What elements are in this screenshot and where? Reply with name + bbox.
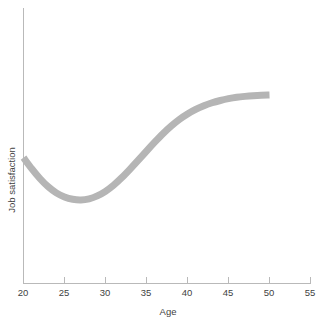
x-tick-label-45: 45: [223, 287, 234, 298]
job-satisfaction-line-chart: 20 25 30 35 40 45 50 55 Age Job satisfac…: [0, 0, 331, 323]
x-tick-label-50: 50: [264, 287, 275, 298]
x-axis-tick-labels: 20 25 30 35 40 45 50 55: [18, 287, 316, 298]
x-tick-label-55: 55: [305, 287, 316, 298]
x-axis-title: Age: [160, 306, 177, 317]
x-tick-label-40: 40: [182, 287, 193, 298]
chart-container: 20 25 30 35 40 45 50 55 Age Job satisfac…: [0, 0, 331, 323]
x-tick-label-30: 30: [100, 287, 111, 298]
x-axis-ticks: [24, 277, 311, 284]
x-tick-label-35: 35: [141, 287, 152, 298]
x-tick-label-20: 20: [18, 287, 29, 298]
job-satisfaction-curve: [24, 95, 270, 200]
y-axis-title: Job satisfaction: [6, 147, 17, 212]
x-tick-label-25: 25: [59, 287, 70, 298]
